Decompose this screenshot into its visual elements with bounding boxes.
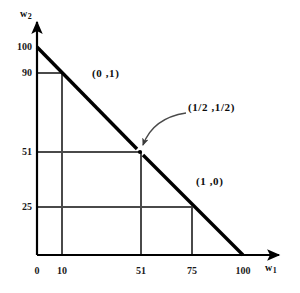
axes-lines	[37, 22, 279, 255]
gridlines	[37, 73, 192, 255]
x-tick-label-75: 75	[180, 266, 204, 276]
callout-arrow-midpoint	[143, 113, 186, 145]
x-axis-title-subscript: 1	[273, 266, 277, 275]
y-tick-label-51: 51	[4, 147, 32, 157]
budget-line-upper-segment	[37, 47, 137, 149]
annotation-label-1-0: (1 ,0)	[196, 176, 223, 187]
y-tick-label-90: 90	[4, 68, 32, 78]
plot-canvas	[0, 0, 300, 293]
y-axis-title-text: w	[20, 8, 27, 19]
y-axis-title: w2	[20, 9, 31, 19]
annotation-label-half-half: (1/2 ,1/2)	[188, 102, 235, 113]
y-tick-label-100: 100	[4, 42, 32, 52]
x-tick-label-51: 51	[129, 266, 153, 276]
x-tick-label-0: 0	[25, 266, 49, 276]
x-tick-label-10: 10	[50, 266, 74, 276]
y-axis-title-subscript: 2	[28, 12, 32, 21]
annotation-label-0-1: (0 ,1)	[92, 68, 119, 79]
budget-line-lower-segment	[143, 155, 243, 255]
diagram-figure: w2 w1 100 90 51 25 0 10 51 75 100 (0 ,1)…	[0, 0, 300, 293]
y-tick-label-25: 25	[4, 202, 32, 212]
midpoint-marker	[138, 150, 142, 154]
x-axis-title-text: w	[265, 262, 272, 273]
x-tick-label-100: 100	[229, 266, 257, 276]
x-axis-title: w1	[265, 263, 276, 273]
